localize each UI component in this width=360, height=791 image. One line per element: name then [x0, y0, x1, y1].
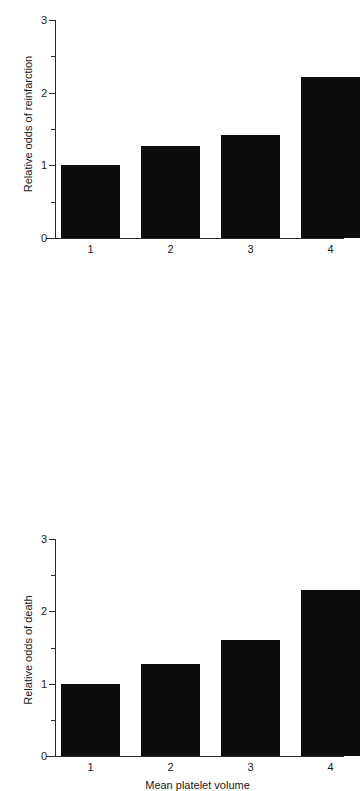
y-tick-major-0-bottom: [49, 756, 55, 757]
y-tick-label-3-top: 3: [41, 15, 47, 26]
x-tick-label-4-top: 4: [301, 243, 360, 255]
x-tick-label-2-top: 2: [141, 243, 200, 255]
y-tick-label-2-top: 2: [41, 87, 47, 98]
y-tick-label-1-bottom: 1: [41, 678, 47, 689]
x-axis-title-bottom: Mean platelet volume: [55, 779, 340, 791]
x-tick-label-3-bottom: 3: [221, 761, 280, 773]
bar-slot-2-bottom: 2: [141, 539, 200, 756]
x-tick-label-3-top: 3: [221, 243, 280, 255]
bar-group-bottom: 1 2 3 4: [55, 539, 340, 756]
bar-slot-1-bottom: 1: [61, 539, 120, 756]
bar-reinfarction-4: [301, 77, 360, 238]
chart-reinfarction: Relative odds of reinfarction 3 2 1 0 1 …: [0, 0, 355, 276]
bar-reinfarction-3: [221, 135, 280, 238]
bar-death-2: [141, 664, 200, 756]
x-tick-label-1-bottom: 1: [61, 761, 120, 773]
chart-death: Relative odds of death 3 2 1 0 1 2 3: [0, 262, 355, 536]
bar-slot-1-top: 1: [61, 20, 120, 238]
y-tick-label-3-bottom: 3: [41, 534, 47, 545]
bar-reinfarction-1: [61, 165, 120, 238]
x-tick-label-2-bottom: 2: [141, 761, 200, 773]
bar-reinfarction-2: [141, 146, 200, 238]
y-axis-title-top: Relative odds of reinfarction: [22, 49, 34, 199]
bar-death-4: [301, 590, 360, 756]
bar-slot-4-bottom: 4: [301, 539, 360, 756]
bar-slot-4-top: 4: [301, 20, 360, 238]
y-tick-label-0-top: 0: [41, 233, 47, 244]
bar-slot-3-top: 3: [221, 20, 280, 238]
y-tick-label-2-bottom: 2: [41, 606, 47, 617]
y-axis-title-bottom: Relative odds of death: [22, 586, 34, 714]
y-tick-label-1-top: 1: [41, 160, 47, 171]
x-tick-label-4-bottom: 4: [301, 761, 360, 773]
plot-area-top: 3 2 1 0 1 2 3 4: [55, 20, 340, 238]
bar-slot-3-bottom: 3: [221, 539, 280, 756]
y-tick-label-0-bottom: 0: [41, 751, 47, 762]
x-tick-label-1-top: 1: [61, 243, 120, 255]
y-tick-major-0-top: [49, 238, 55, 239]
x-axis-line-bottom: [46, 756, 344, 757]
bar-death-3: [221, 640, 280, 756]
bar-group-top: 1 2 3 4: [55, 20, 340, 238]
plot-area-bottom: 3 2 1 0 1 2 3 4: [55, 539, 340, 756]
bar-death-1: [61, 684, 120, 756]
bar-slot-2-top: 2: [141, 20, 200, 238]
x-axis-line-top: [46, 238, 344, 239]
